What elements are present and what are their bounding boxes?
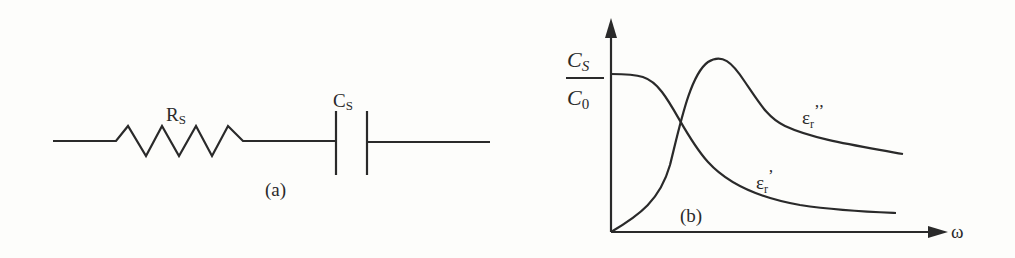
diagram-canvas: RS CS (a) ω CS C0 εr’’ [0,0,1015,258]
circuit-diagram: RS CS (a) [53,90,490,201]
svg-text:C0: C0 [567,85,589,112]
eps-double-prime-label: εr’’ [802,101,824,131]
svg-text:CS: CS [567,47,590,74]
eps-prime-label: εr’ [756,166,774,196]
y-tick-label: CS C0 [566,47,604,112]
x-axis-label: ω [951,221,964,242]
y-axis-arrow-icon [605,18,617,38]
panel-label-a: (a) [265,179,286,201]
x-axis-arrow-icon [928,226,948,238]
dispersion-plot: ω CS C0 εr’’ εr’ (b) [566,18,964,242]
capacitor-label: CS [333,90,353,113]
resistor-label: RS [166,104,186,127]
resistor-symbol [53,126,336,156]
panel-label-b: (b) [680,205,702,227]
